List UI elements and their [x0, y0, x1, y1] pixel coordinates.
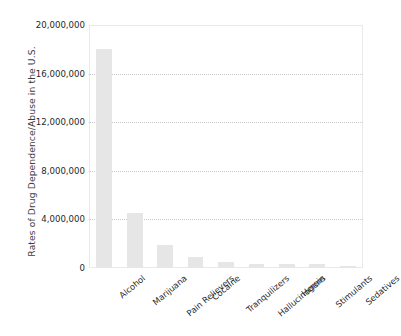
x-axis-tick-label: Heroin — [299, 273, 326, 298]
x-axis-tick-label: Alcohol — [117, 273, 147, 300]
x-axis-tick-label: Marijuana — [150, 273, 188, 307]
